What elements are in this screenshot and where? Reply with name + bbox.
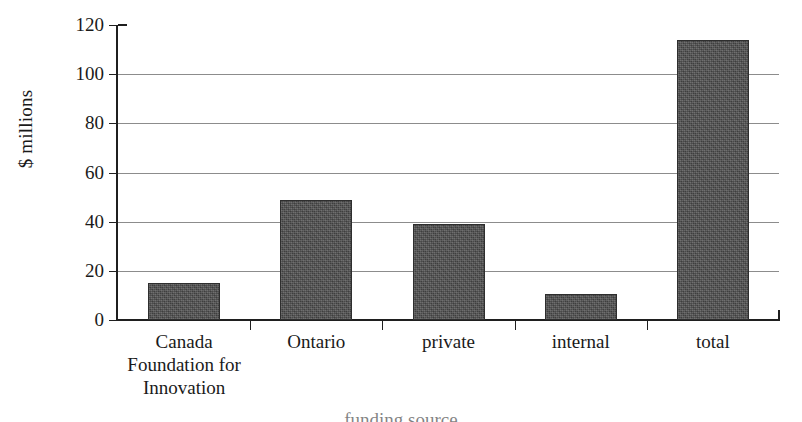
y-tick-label: 120 <box>24 15 104 34</box>
y-tick-label: 0 <box>24 310 104 329</box>
y-tick-mark <box>109 123 118 124</box>
bar <box>545 294 617 320</box>
y-tick-label: 40 <box>24 212 104 231</box>
bar <box>148 283 220 320</box>
x-axis-caption: funding source <box>0 409 802 422</box>
x-separator-tick <box>515 321 516 330</box>
x-separator-tick <box>250 321 251 330</box>
x-category-label-line: Foundation for <box>106 353 262 376</box>
x-axis-end-cap <box>778 310 780 321</box>
plot-area <box>118 25 779 320</box>
y-tick-mark <box>109 222 118 223</box>
y-tick-mark <box>109 25 118 26</box>
y-tick-mark <box>109 320 118 321</box>
bar <box>280 200 352 320</box>
y-tick-mark <box>109 173 118 174</box>
bar <box>413 224 485 320</box>
y-tick-label: 100 <box>24 64 104 83</box>
y-tick-mark <box>109 74 118 75</box>
y-tick-mark <box>109 271 118 272</box>
y-tick-label: 60 <box>24 163 104 182</box>
x-category-label: total <box>635 330 791 353</box>
y-tick-label: 80 <box>24 113 104 132</box>
x-separator-tick <box>382 321 383 330</box>
x-category-label-line: total <box>635 330 791 353</box>
bar <box>677 40 749 320</box>
y-tick-label: 20 <box>24 261 104 280</box>
bar-chart: $ millions 020406080100120 CanadaFoundat… <box>0 0 802 422</box>
x-separator-tick <box>647 321 648 330</box>
x-category-label-line: Innovation <box>106 376 262 399</box>
